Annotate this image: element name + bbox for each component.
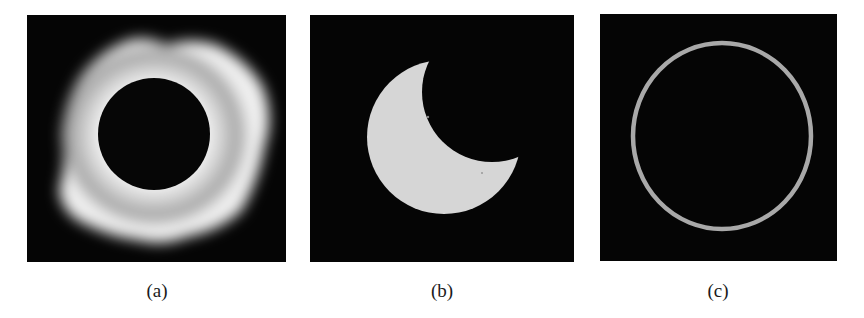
panel-c-annular-eclipse (600, 14, 837, 261)
sun-disk (367, 60, 521, 214)
annular-ring (633, 43, 811, 229)
caption-a: (a) (127, 278, 187, 304)
caption-c: (c) (688, 278, 748, 304)
total-eclipse-image (27, 15, 286, 262)
annular-eclipse-image (600, 14, 837, 261)
partial-eclipse-image (310, 15, 574, 262)
panel-b-partial-eclipse (310, 15, 574, 262)
moon-disk (98, 78, 210, 190)
caption-b: (b) (412, 278, 472, 304)
panel-a-total-eclipse (27, 15, 286, 262)
